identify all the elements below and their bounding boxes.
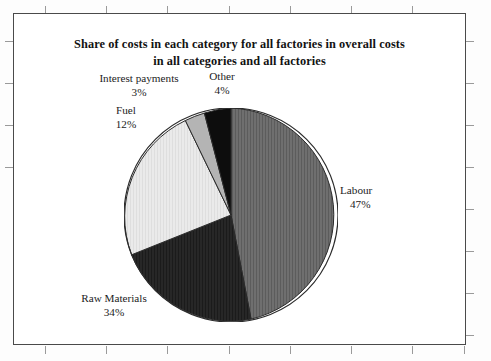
pie-label-raw-materials-value: 34% (60, 306, 168, 320)
pie-label-interest-payments-name: Interest payments (91, 72, 187, 86)
pie-svg (124, 108, 338, 322)
registration-tick-bottom (351, 346, 352, 354)
registration-tick-right (466, 167, 474, 168)
registration-tick-top (351, 6, 352, 13)
registration-tick-right (466, 251, 474, 252)
pie-label-other-name: Other (196, 70, 248, 84)
registration-tick-right (466, 83, 474, 84)
registration-tick-top (290, 6, 291, 13)
pie-label-fuel: Fuel 12% (104, 104, 148, 131)
pie-label-other: Other 4% (196, 70, 248, 97)
registration-tick-right (466, 41, 474, 42)
registration-tick-left (5, 41, 13, 42)
pie-label-interest-payments: Interest payments 3% (91, 72, 187, 99)
chart-title: Share of costs in each category for all … (14, 36, 465, 70)
registration-tick-right (466, 125, 474, 126)
registration-tick-bottom (106, 346, 107, 354)
pie-label-interest-payments-value: 3% (91, 86, 187, 100)
pie-chart (124, 108, 338, 322)
pie-label-labour-name: Labour (340, 184, 420, 198)
registration-tick-right (466, 293, 474, 294)
registration-tick-bottom (229, 346, 230, 354)
pie-slice-labour[interactable] (231, 108, 334, 319)
pie-label-labour: Labour 47% (340, 184, 420, 211)
registration-tick-left (5, 125, 13, 126)
registration-tick-top (106, 6, 107, 13)
pie-label-other-value: 4% (196, 84, 248, 98)
pie-label-labour-value: 47% (340, 198, 420, 212)
registration-tick-top (229, 6, 230, 13)
pie-label-fuel-name: Fuel (104, 104, 148, 118)
pie-label-raw-materials-name: Raw Materials (60, 292, 168, 306)
registration-tick-bottom (45, 346, 46, 354)
registration-tick-top (45, 6, 46, 13)
registration-tick-bottom (412, 346, 413, 354)
registration-tick-top (412, 6, 413, 13)
registration-tick-left (5, 83, 13, 84)
registration-tick-bottom (167, 346, 168, 354)
registration-tick-right (466, 335, 474, 336)
registration-tick-right (466, 209, 474, 210)
registration-tick-bottom (464, 346, 465, 354)
registration-tick-top (167, 6, 168, 13)
registration-tick-left (5, 167, 13, 168)
registration-tick-bottom (290, 346, 291, 354)
pie-label-raw-materials: Raw Materials 34% (60, 292, 168, 319)
pie-label-fuel-value: 12% (104, 118, 148, 132)
chart-title-line-2: in all categories and all factories (14, 53, 465, 70)
chart-title-line-1: Share of costs in each category for all … (14, 36, 465, 53)
